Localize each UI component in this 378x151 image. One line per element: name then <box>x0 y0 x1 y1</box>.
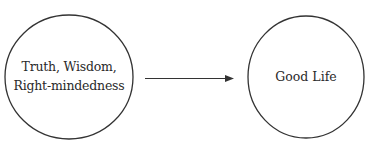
arrowhead-icon <box>225 75 234 82</box>
target-node-label: Good Life <box>248 69 364 85</box>
source-node-line-1: Truth, Wisdom, <box>5 57 133 76</box>
source-node-label: Truth, Wisdom, Right-mindedness <box>5 57 133 95</box>
target-node-line-1: Good Life <box>248 69 364 85</box>
source-node-line-2: Right-mindedness <box>5 76 133 95</box>
